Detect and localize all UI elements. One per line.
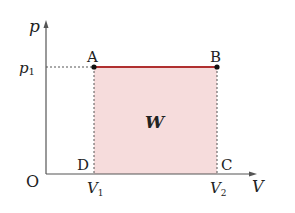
v-axis-label: V (252, 177, 265, 196)
point-b-label: B (210, 48, 221, 66)
point-d-label: D (77, 156, 89, 174)
origin-label: O (26, 172, 39, 191)
p-axis-label: p (29, 16, 40, 36)
point-a-label: A (86, 48, 98, 66)
point-c-label: C (221, 156, 232, 174)
work-label: W (145, 112, 166, 132)
v2-label: V2 (210, 179, 227, 198)
v-axis-arrow-icon (249, 172, 257, 177)
pv-diagram: p p1 A B D C W O V1 V2 V (0, 0, 295, 213)
v1-label: V1 (87, 179, 104, 198)
p-axis-arrow-icon (44, 20, 49, 28)
p1-label: p1 (19, 59, 35, 77)
